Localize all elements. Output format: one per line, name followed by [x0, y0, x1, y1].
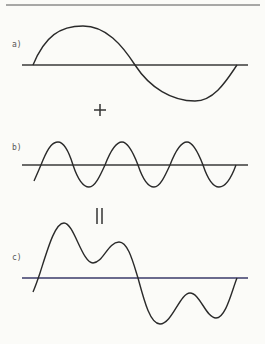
panel-b-label: b)	[12, 143, 22, 152]
equals-operator	[97, 208, 102, 224]
panel-c: c)	[12, 223, 248, 324]
plus-operator	[94, 104, 106, 116]
panel-c-wave	[33, 223, 237, 324]
panel-a-wave	[33, 26, 237, 101]
panel-c-label: c)	[12, 253, 22, 262]
diagram-svg: a) b) c)	[0, 0, 265, 344]
superposition-diagram: a) b) c)	[0, 0, 265, 344]
panel-a-label: a)	[12, 40, 22, 49]
panel-b: b)	[12, 142, 248, 187]
panel-a: a)	[12, 26, 248, 101]
